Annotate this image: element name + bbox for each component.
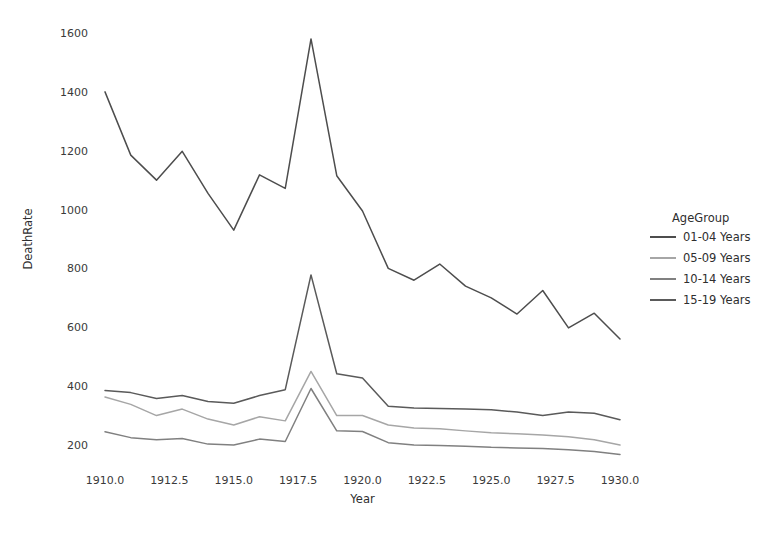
legend-label-2[interactable]: 05-09 Years	[683, 251, 750, 265]
x-tick-label: 1920.0	[343, 474, 382, 487]
legend-label-1[interactable]: 01-04 Years	[683, 230, 750, 244]
chart-figure: 1910.01912.51915.01917.51920.01922.51925…	[0, 0, 779, 545]
x-tick-label: 1915.0	[215, 474, 254, 487]
x-axis-title: Year	[349, 492, 375, 506]
y-tick-label: 1000	[60, 204, 88, 217]
x-tick-label: 1922.5	[408, 474, 447, 487]
y-tick-label: 1600	[60, 27, 88, 40]
y-tick-label: 800	[67, 262, 88, 275]
series-line-15-19-years	[105, 275, 620, 420]
y-tick-label: 1400	[60, 86, 88, 99]
series-line-10-14-years	[105, 388, 620, 454]
y-tick-label: 600	[67, 321, 88, 334]
legend: AgeGroup01-04 Years05-09 Years10-14 Year…	[650, 211, 750, 307]
x-tick-label: 1917.5	[279, 474, 318, 487]
x-tick-label: 1927.5	[536, 474, 575, 487]
line-chart-canvas: 1910.01912.51915.01917.51920.01922.51925…	[0, 0, 779, 545]
x-axis-ticks: 1910.01912.51915.01917.51920.01922.51925…	[86, 474, 640, 487]
x-tick-label: 1912.5	[150, 474, 189, 487]
legend-title: AgeGroup	[672, 211, 729, 225]
y-tick-label: 200	[67, 439, 88, 452]
y-axis-ticks: 2004006008001000120014001600	[60, 27, 88, 452]
x-tick-label: 1930.0	[601, 474, 640, 487]
y-tick-label: 400	[67, 380, 88, 393]
x-tick-label: 1925.0	[472, 474, 511, 487]
series-line-05-09-years	[105, 371, 620, 445]
series-group	[105, 39, 620, 455]
x-tick-label: 1910.0	[86, 474, 125, 487]
legend-label-3[interactable]: 10-14 Years	[683, 272, 750, 286]
series-line-01-04-years	[105, 39, 620, 339]
y-axis-title: DeathRate	[21, 208, 35, 269]
y-tick-label: 1200	[60, 145, 88, 158]
legend-label-4[interactable]: 15-19 Years	[683, 293, 750, 307]
